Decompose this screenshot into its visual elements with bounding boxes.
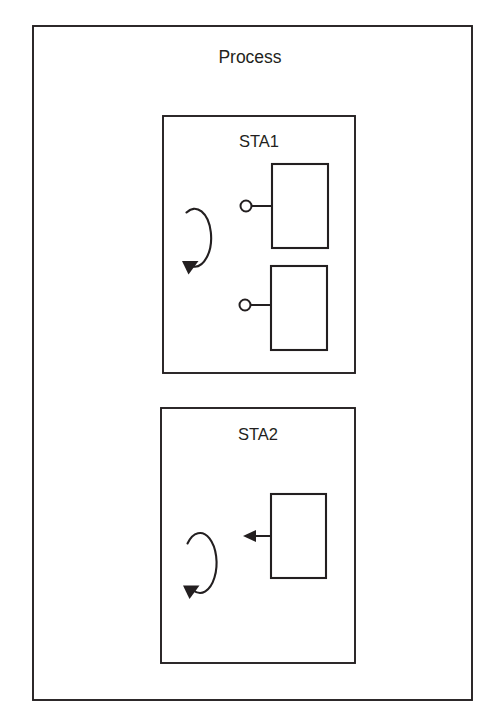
sta1-label: STA1: [239, 132, 279, 150]
sta1-block-1-body[interactable]: [272, 164, 328, 248]
process-diagram: Process STA1: [0, 0, 484, 712]
diagram-canvas: Process STA1: [0, 0, 484, 712]
process-title: Process: [218, 47, 281, 67]
sta1-block-2-body[interactable]: [271, 266, 327, 350]
sta2-label: STA2: [238, 425, 278, 443]
sta2-block-1-body[interactable]: [271, 494, 326, 578]
sta1-block-1-port-circle[interactable]: [241, 201, 252, 212]
station-sta2[interactable]: STA2: [161, 408, 355, 663]
sta1-block-2-port-circle[interactable]: [240, 300, 251, 311]
station-sta1[interactable]: STA1: [163, 116, 355, 373]
